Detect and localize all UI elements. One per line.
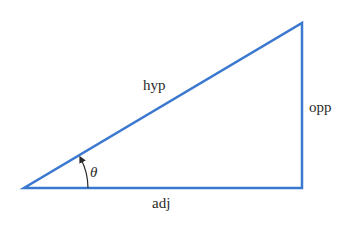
angle-arc-arrow-icon (81, 159, 88, 188)
opposite-label: opp (309, 99, 332, 115)
angle-theta-label: θ (90, 164, 98, 180)
adjacent-label: adj (152, 195, 170, 211)
hypotenuse-label: hyp (143, 77, 166, 93)
right-triangle-diagram: hyp opp adj θ (0, 0, 352, 227)
triangle-outline (24, 23, 302, 188)
